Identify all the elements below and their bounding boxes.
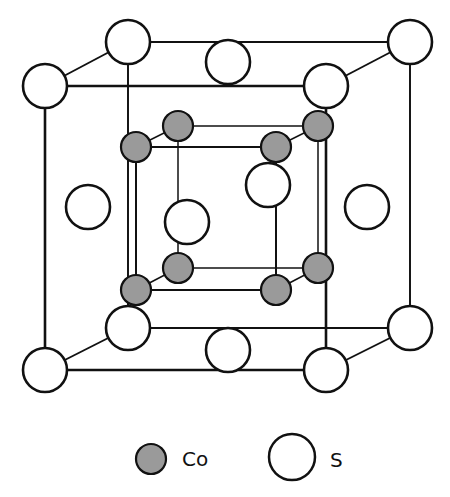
co-legend-icon	[136, 444, 166, 474]
co-atom	[163, 111, 193, 141]
s-atom	[304, 348, 348, 392]
s-atom	[388, 306, 432, 350]
atoms	[23, 20, 432, 392]
s-atom	[206, 328, 250, 372]
co-atom	[121, 275, 151, 305]
s-atom	[165, 200, 209, 244]
s-legend-label: S	[330, 448, 343, 472]
s-atom	[66, 185, 110, 229]
co-legend-label: Co	[182, 447, 208, 471]
s-atom	[106, 306, 150, 350]
s-legend-icon	[269, 434, 315, 480]
s-atom	[23, 348, 67, 392]
crystal-structure-diagram: Co S	[0, 0, 450, 497]
co-atom	[121, 132, 151, 162]
s-atom	[345, 185, 389, 229]
co-atom	[261, 275, 291, 305]
co-atom	[261, 132, 291, 162]
co-atom	[303, 111, 333, 141]
legend: Co S	[136, 434, 343, 480]
s-atom	[246, 163, 290, 207]
s-atom	[206, 40, 250, 84]
co-atom	[163, 253, 193, 283]
s-atom	[106, 20, 150, 64]
s-atom	[304, 64, 348, 108]
s-atom	[388, 20, 432, 64]
co-atom	[303, 253, 333, 283]
s-atom	[23, 64, 67, 108]
